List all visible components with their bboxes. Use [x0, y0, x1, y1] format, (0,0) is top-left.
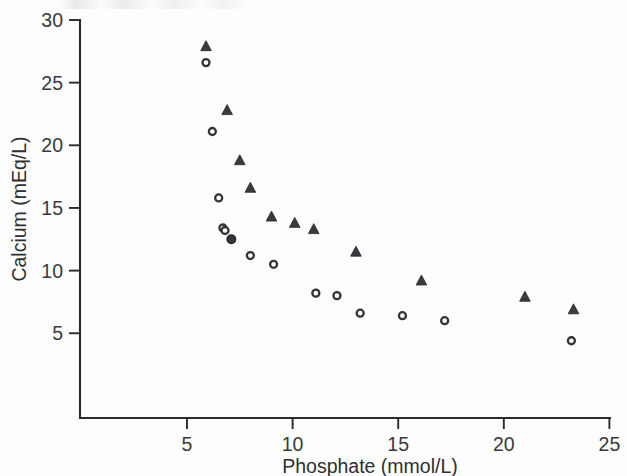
y-tick-label: 25: [41, 72, 63, 94]
axis-lines: [80, 20, 610, 418]
data-point-circle: [399, 312, 406, 319]
y-tick-label: 20: [41, 134, 63, 156]
data-point-triangle: [520, 291, 531, 301]
data-point-triangle: [308, 224, 319, 234]
data-point-circle: [247, 252, 254, 259]
data-point-circle: [312, 290, 319, 297]
x-axis-title: Phosphate (mmol/L): [282, 455, 458, 476]
x-tick-label: 15: [387, 433, 409, 455]
y-axis-title: Calcium (mEq/L): [8, 136, 30, 281]
data-point-triangle: [222, 105, 233, 115]
data-point-circle: [209, 128, 216, 135]
data-point-triangle: [416, 275, 427, 285]
y-tick-label: 10: [41, 260, 63, 282]
data-point-triangle: [266, 211, 277, 221]
data-point-circle: [568, 337, 575, 344]
plot-canvas: 51015202530510152025Phosphate (mmol/L)Ca…: [0, 0, 627, 476]
data-point-circle: [222, 227, 229, 234]
data-point-triangle: [568, 304, 579, 314]
data-point-circle: [270, 261, 277, 268]
series-circle-series: [203, 59, 575, 344]
scatter-plot-figure: 51015202530510152025Phosphate (mmol/L)Ca…: [0, 0, 627, 476]
data-point-triangle: [245, 182, 256, 192]
x-tick-label: 5: [182, 433, 193, 455]
y-tick-label: 5: [52, 322, 63, 344]
series-triangle-series: [201, 41, 579, 314]
data-point-circle: [203, 59, 210, 66]
y-tick-label: 15: [41, 197, 63, 219]
x-tick-label: 25: [599, 433, 621, 455]
data-point-circle: [357, 310, 364, 317]
data-point-triangle: [201, 41, 212, 51]
data-point-triangle: [289, 217, 300, 227]
data-point-circle: [441, 317, 448, 324]
y-tick-label: 30: [41, 9, 63, 31]
data-point-triangle: [351, 246, 362, 256]
data-point-circle: [215, 194, 222, 201]
data-point-circle-filled: [227, 235, 235, 243]
data-point-triangle: [234, 155, 245, 165]
x-tick-label: 20: [493, 433, 515, 455]
data-point-circle: [333, 292, 340, 299]
x-tick-label: 10: [282, 433, 304, 455]
